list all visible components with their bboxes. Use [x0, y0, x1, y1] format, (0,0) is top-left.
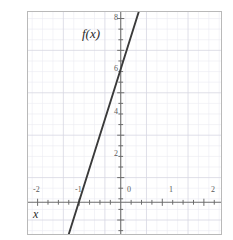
y-tick-label-6: 6	[114, 65, 118, 73]
x-axis-label: x	[33, 208, 38, 220]
graph-figure: 8 6 4 2 -2 -1 0 1 2 f(x) x	[0, 0, 233, 240]
function-line	[28, 12, 221, 234]
y-tick-label-8: 8	[114, 14, 118, 22]
x-tick-label-1: 1	[169, 186, 173, 194]
plot-area	[27, 11, 222, 235]
x-tick-label-2: 2	[211, 186, 215, 194]
linear-function-curve	[64, 12, 144, 234]
x-tick-label-0: 0	[127, 186, 131, 194]
y-axis-label: f(x)	[82, 27, 100, 40]
y-tick-label-4: 4	[114, 108, 118, 116]
x-tick-label-neg2: -2	[33, 186, 40, 194]
y-tick-label-2: 2	[114, 150, 118, 158]
x-tick-label-neg1: -1	[75, 186, 82, 194]
